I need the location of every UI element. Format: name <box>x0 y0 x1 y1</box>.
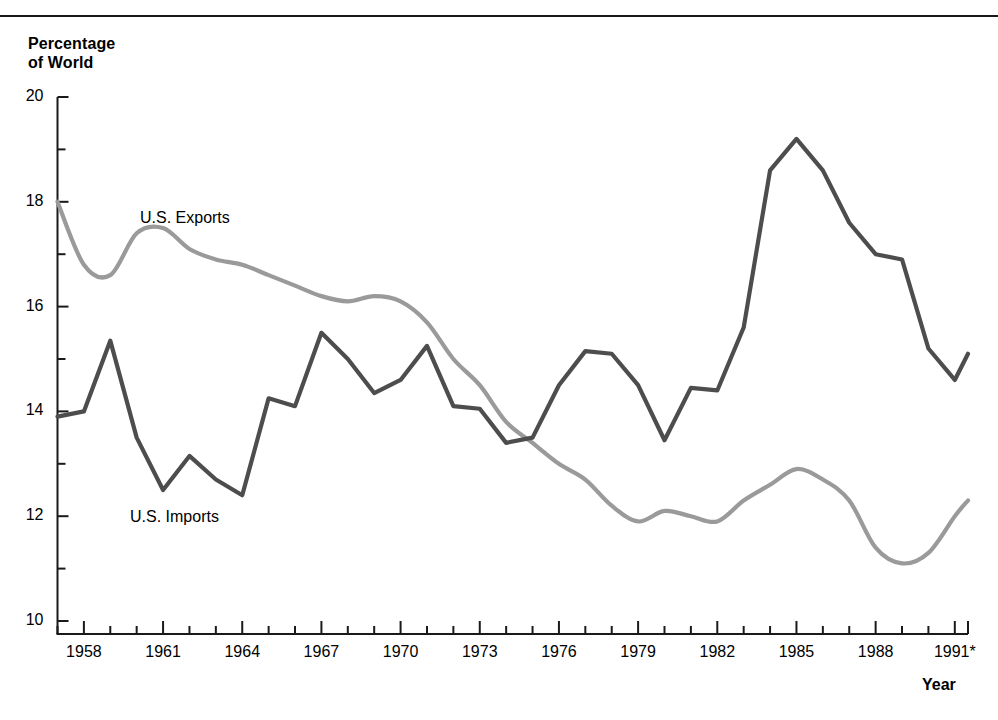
series-line-imports <box>58 139 969 495</box>
chart-figure: Percentage of World Year U.S. Exports U.… <box>0 0 998 720</box>
x-axis-tick-label: 1964 <box>207 643 277 661</box>
y-axis-tick-label: 14 <box>10 401 44 419</box>
x-axis-tick-label: 1979 <box>603 643 673 661</box>
x-axis-tick-label: 1985 <box>761 643 831 661</box>
x-axis-tick-label: 1961 <box>128 643 198 661</box>
x-axis-tick-label: 1973 <box>445 643 515 661</box>
x-axis-tick-label: 1967 <box>286 643 356 661</box>
series-label-imports: U.S. Imports <box>130 508 219 526</box>
y-axis-tick-label: 12 <box>10 506 44 524</box>
x-axis-tick-label: 1976 <box>524 643 594 661</box>
x-axis-tick-label: 1991* <box>920 643 990 661</box>
y-axis-tick-label: 20 <box>10 87 44 105</box>
y-axis-title-line1: Percentage <box>28 34 115 53</box>
top-divider-rule <box>0 15 998 17</box>
x-axis-title: Year <box>922 676 956 694</box>
x-axis-tick-label: 1982 <box>682 643 752 661</box>
y-axis-tick-label: 18 <box>10 192 44 210</box>
x-axis-tick-label: 1958 <box>49 643 119 661</box>
series-label-exports: U.S. Exports <box>140 209 230 227</box>
y-axis-title: Percentage of World <box>28 34 115 72</box>
x-axis-tick-label: 1970 <box>366 643 436 661</box>
y-axis-tick-label: 10 <box>10 611 44 629</box>
y-axis-tick-label: 16 <box>10 297 44 315</box>
y-axis-title-line2: of World <box>28 53 115 72</box>
line-chart-plot <box>0 0 998 720</box>
x-axis-tick-label: 1988 <box>841 643 911 661</box>
